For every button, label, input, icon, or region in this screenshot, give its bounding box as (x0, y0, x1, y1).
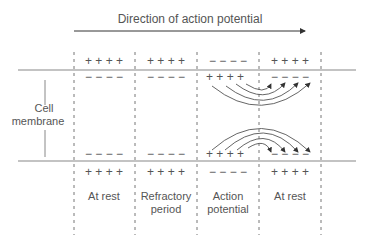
seg0-inside-top: − − − − (85, 70, 123, 84)
seg1-outside-top: + + + + (147, 54, 185, 68)
seg1-outside-bottom: + + + + (147, 165, 185, 179)
seg0-outside-bottom: + + + + (85, 165, 123, 179)
seg3-inside-bottom: − − − − (271, 147, 309, 161)
seg2-inside-top: + + + + (206, 70, 244, 84)
current-arrows-top (212, 83, 310, 105)
seg1-label-1: Refractory (141, 190, 192, 202)
seg1-label-2: period (151, 203, 182, 215)
seg0-outside-top: + + + + (85, 54, 123, 68)
seg0-label-1: At rest (88, 190, 120, 202)
seg3-inside-top: − − − − (271, 70, 309, 84)
diagram-title: Direction of action potential (118, 12, 263, 26)
seg1-inside-bottom: − − − − (147, 147, 185, 161)
seg2-outside-top: − − − − (209, 54, 247, 68)
seg2-label-2: potential (207, 203, 249, 215)
seg1-inside-top: − − − − (147, 70, 185, 84)
cell-membrane-label-2: membrane (12, 115, 65, 127)
seg2-label-1: Action (213, 190, 244, 202)
current-arrows-bottom (212, 128, 310, 152)
seg2-outside-bottom: − − − − (209, 165, 247, 179)
seg0-inside-bottom: − − − − (85, 147, 123, 161)
action-potential-diagram: Direction of action potential Cell membr… (0, 0, 374, 245)
seg3-outside-bottom: + + + + (271, 165, 309, 179)
cell-membrane-label-1: Cell (35, 102, 54, 114)
seg3-label-1: At rest (274, 190, 306, 202)
seg3-outside-top: + + + + (271, 54, 309, 68)
